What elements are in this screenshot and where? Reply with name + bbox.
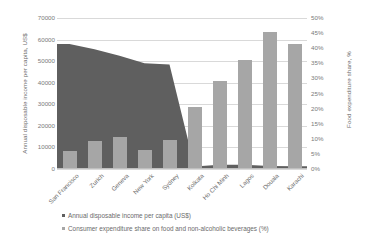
x-axis-line [57,168,307,169]
y-axis-left-tick-label: 30000 [9,101,55,107]
chart-legend: Annual disposable income per capita (US$… [62,212,269,238]
food-share-bar [288,44,302,169]
legend-swatch-income-icon [62,214,65,217]
y-axis-left-title: Annual disposable income per capita, US$ [21,24,28,164]
y-axis-right-tick-label: 10% [311,136,351,142]
y-axis-right-tick-label: 30% [311,75,351,81]
food-share-bar [113,137,127,169]
food-share-bar [88,141,102,169]
legend-label-income: Annual disposable income per capita (US$… [68,212,191,219]
y-axis-left-tick-label: 50000 [9,58,55,64]
y-axis-left-tick-label: 20000 [9,123,55,129]
plot-area [57,18,307,169]
y-axis-right-tick-label: 25% [311,91,351,97]
y-axis-right-tick-label: 50% [311,15,351,21]
y-axis-right-tick-label: 45% [311,30,351,36]
food-share-bar [163,140,177,169]
food-share-bar [238,60,252,169]
legend-label-food-share: Consumer expenditure share on food and n… [68,225,269,232]
y-axis-left-tick-label: 60000 [9,37,55,43]
y-axis-left-tick-label: 10000 [9,144,55,150]
y-axis-left-tick-label: 70000 [9,15,55,21]
y-axis-left-tick-label: 0 [9,166,55,172]
legend-item-income: Annual disposable income per capita (US$… [62,212,269,219]
y-axis-right-tick-label: 35% [311,60,351,66]
food-share-bar [188,107,202,170]
y-axis-right-tick-label: 20% [311,106,351,112]
y-axis-right-tick-label: 15% [311,121,351,127]
legend-item-food-share: Consumer expenditure share on food and n… [62,225,269,232]
food-share-bar [213,81,227,169]
gridline [57,169,307,170]
food-share-bar [263,32,277,169]
chart-container: Annual disposable income per capita, US$… [0,0,366,246]
legend-swatch-food-share-icon [62,227,65,230]
y-axis-right-tick-label: 0% [311,166,351,172]
food-share-bar [138,150,152,169]
y-axis-right-tick-label: 40% [311,45,351,51]
food-share-bar [63,151,77,169]
y-axis-left-tick-label: 40000 [9,80,55,86]
y-axis-right-tick-label: 5% [311,151,351,157]
